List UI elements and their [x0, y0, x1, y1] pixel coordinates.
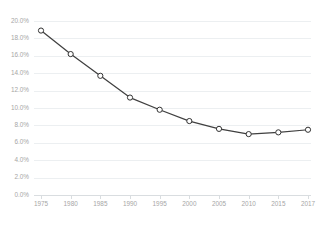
chart-background: [0, 0, 324, 227]
x-axis-tick-label: 1980: [64, 200, 79, 207]
x-axis-tick-label: 2000: [182, 200, 197, 207]
x-axis-tick-label: 1975: [34, 200, 49, 207]
y-axis-tick-label: 14.0%: [11, 69, 29, 76]
y-axis-tick-label: 4.0%: [14, 156, 29, 163]
data-point-marker: [276, 130, 281, 135]
y-axis-tick-label: 12.0%: [11, 86, 29, 93]
y-axis-tick-label: 2.0%: [14, 173, 29, 180]
data-point-marker: [38, 28, 43, 33]
y-axis-tick-label: 20.0%: [11, 17, 29, 24]
y-axis-tick-label: 16.0%: [11, 51, 29, 58]
y-axis-tick-label: 10.0%: [11, 104, 29, 111]
data-point-marker: [246, 132, 251, 137]
data-point-marker: [216, 126, 221, 131]
x-axis-tick-label: 2015: [271, 200, 286, 207]
chart-canvas: 0.0%2.0%4.0%6.0%8.0%10.0%12.0%14.0%16.0%…: [0, 0, 324, 227]
x-axis-tick-label: 2017: [301, 200, 316, 207]
x-axis-tick-label: 2010: [242, 200, 257, 207]
x-axis-tick-label: 2005: [212, 200, 227, 207]
x-axis-tick-label: 1990: [123, 200, 138, 207]
data-point-marker: [98, 73, 103, 78]
x-axis-tick-label: 1985: [93, 200, 108, 207]
y-axis-tick-label: 6.0%: [14, 138, 29, 145]
data-point-marker: [68, 51, 73, 56]
y-axis-tick-label: 0.0%: [14, 191, 29, 198]
data-point-marker: [157, 107, 162, 112]
data-point-marker: [127, 95, 132, 100]
data-point-marker: [187, 118, 192, 123]
y-axis-tick-label: 8.0%: [14, 121, 29, 128]
data-point-marker: [305, 127, 310, 132]
x-axis-tick-label: 1995: [153, 200, 168, 207]
line-chart: 0.0%2.0%4.0%6.0%8.0%10.0%12.0%14.0%16.0%…: [0, 0, 324, 227]
y-axis-tick-label: 18.0%: [11, 34, 29, 41]
